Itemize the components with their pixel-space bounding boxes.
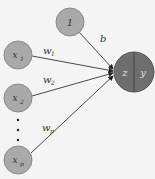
edge-x1 (32, 56, 113, 71)
input-subscript: 1 (20, 55, 24, 62)
weight-subscript: p (50, 127, 54, 135)
weight-subscript: 2 (50, 79, 55, 86)
input-subscript: 2 (19, 98, 24, 105)
input-node-xp: x p (4, 146, 32, 174)
bias-weight-label: b (100, 33, 106, 44)
ellipsis-dots (17, 119, 19, 141)
weight-w1: w 1 (43, 45, 55, 57)
output-y-label: y (139, 67, 146, 78)
input-node-x2: x 2 (4, 84, 32, 112)
input-subscript: p (20, 160, 24, 168)
bias-node: 1 (56, 8, 84, 36)
edge-xp (31, 76, 113, 153)
weight-subscript: 1 (51, 50, 55, 57)
bias-edge (79, 32, 113, 69)
input-label: x (12, 50, 17, 60)
input-label: x (12, 93, 17, 103)
perceptron-diagram: 1 b x 1 w 1 x 2 w 2 x p w p z y (0, 0, 155, 179)
input-node-x1: x 1 (4, 41, 32, 69)
bias-node-label: 1 (67, 17, 73, 28)
weight-wp: w p (42, 122, 54, 135)
output-node: z y (114, 52, 154, 92)
input-label: x (12, 155, 17, 165)
output-z-label: z (121, 67, 128, 78)
weight-w2: w 2 (43, 74, 55, 86)
